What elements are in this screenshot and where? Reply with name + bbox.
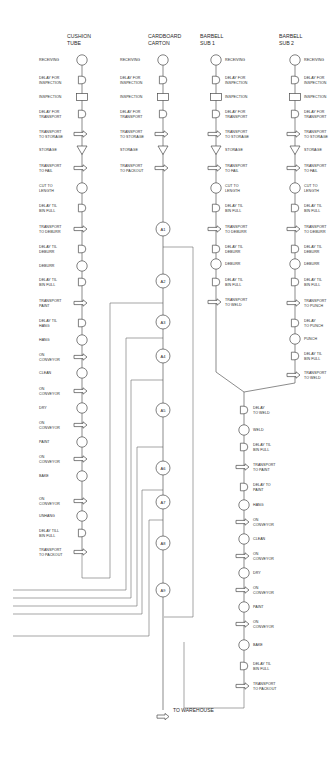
step-label: DELAY FORTRANSPORT	[304, 110, 327, 119]
assembly-node-a2: A2	[156, 274, 170, 288]
operation-icon	[290, 259, 300, 269]
step-label: PUNCH	[304, 337, 317, 341]
operation-icon	[211, 183, 221, 193]
step-label: TRANSPORTTO PACKOUT	[39, 548, 63, 557]
step-label: TRANSPORTTO FAIL	[225, 164, 248, 173]
delay-icon	[240, 662, 247, 670]
transport-arrow-icon	[287, 165, 300, 171]
step-label: DELAY TILDEBURR	[225, 245, 243, 254]
merge-line	[216, 302, 295, 392]
step-label: DELAY TILDEBURR	[304, 245, 322, 254]
operation-icon	[77, 511, 87, 521]
assembly-node-a9: A9	[156, 583, 170, 597]
operation-icon	[239, 640, 249, 650]
assembly-node-label: A3	[161, 320, 167, 325]
transport-arrow-icon	[74, 131, 87, 137]
step-label: TRANSPORTTO DEBURR	[304, 225, 327, 234]
transport-arrow-icon	[236, 621, 249, 627]
step-label: DELAY TILBIN FULL	[39, 204, 57, 213]
delay-icon	[212, 245, 219, 253]
step-label: INSPECTION	[39, 95, 62, 99]
step-label: DELAY TILDEBURR	[39, 245, 57, 254]
step-label: ONCONVEYOR	[253, 620, 274, 629]
transport-arrow-icon	[74, 226, 87, 232]
transport-arrow-icon	[155, 131, 168, 137]
assembly-node-label: A5	[161, 408, 167, 413]
step-label: BAKE	[253, 643, 263, 647]
step-label: ONCONVEYOR	[39, 421, 60, 430]
feed-line	[13, 380, 163, 598]
step-label: DEBURR	[225, 262, 241, 266]
delay-icon	[212, 204, 219, 212]
step-label: DELAY FORTRANSPORT	[39, 110, 62, 119]
process-steps: RECEIVINGDELAY FORINSPECTIONINSPECTIONDE…	[39, 55, 328, 720]
operation-icon	[239, 500, 249, 510]
delay-icon	[240, 483, 247, 491]
delay-icon	[291, 352, 298, 360]
operation-icon	[290, 183, 300, 193]
storage-icon	[77, 146, 87, 155]
assembly-node-a4: A4	[156, 349, 170, 363]
operation-icon	[290, 334, 300, 344]
operation-icon	[239, 568, 249, 578]
assembly-node-a6: A6	[156, 461, 170, 475]
step-label: TRANSPORTTO WELD	[225, 298, 248, 307]
step-label: TRANSPORTTO PACKOUT	[253, 682, 277, 691]
delay-icon	[78, 278, 85, 286]
process-flow-diagram: RECEIVINGDELAY FORINSPECTIONINSPECTIONDE…	[0, 0, 334, 764]
operation-icon	[77, 368, 87, 378]
delay-icon	[78, 204, 85, 212]
transport-arrow-icon	[287, 372, 300, 378]
delay-icon	[78, 245, 85, 253]
delay-icon	[159, 76, 166, 84]
delay-icon	[240, 406, 247, 414]
step-label: TRANSPORTTO WELD	[304, 371, 327, 380]
step-label: DELAY TILBIN FULL	[253, 662, 271, 671]
inspection-icon	[290, 94, 301, 101]
column-title: BARBELLSUB 1	[200, 33, 223, 46]
feed-line	[13, 338, 163, 590]
end-marker: TO WAREHOUSE	[173, 707, 215, 713]
step-label: DEBURR	[304, 262, 320, 266]
step-label: DELAY TILHANG	[39, 319, 57, 328]
transport-arrow-icon	[74, 388, 87, 394]
step-label: INSPECTION	[225, 95, 248, 99]
delay-icon	[291, 204, 298, 212]
delay-icon	[240, 443, 247, 451]
step-label: DELAY TILBIN FULL	[225, 204, 243, 213]
delay-icon	[78, 319, 85, 327]
delay-icon	[78, 110, 85, 118]
column-barbell-assembly: DELAYTO WELDWELDDELAY TILBIN FULLTRANSPO…	[236, 406, 277, 691]
transport-arrow-icon	[287, 226, 300, 232]
step-label: CLEAN	[253, 537, 266, 541]
step-label: TRANSPORTTO PUNCH	[304, 299, 327, 308]
step-label: UNHANG	[39, 514, 55, 518]
operation-icon	[77, 403, 87, 413]
delay-icon	[78, 529, 85, 537]
assembly-node-label: A4	[161, 354, 167, 359]
step-label: ONCONVEYOR	[253, 518, 274, 527]
delay-icon	[212, 278, 219, 286]
step-label: PAINT	[253, 605, 264, 609]
barbell-return-line	[184, 642, 244, 708]
transport-arrow-icon	[74, 422, 87, 428]
column-title: CUSHIONTUBE	[67, 33, 91, 46]
step-label: RECEIVING	[39, 58, 59, 62]
transport-arrow-icon	[208, 165, 221, 171]
delay-icon	[291, 76, 298, 84]
column-cardboard-carton: RECEIVINGDELAY FORINSPECTIONINSPECTIONDE…	[120, 55, 169, 173]
step-label: TRANSPORTPAINT	[39, 299, 62, 308]
inspection-icon	[211, 94, 222, 101]
operation-icon	[239, 425, 249, 435]
step-label: CUT TOLENGTH	[39, 184, 54, 193]
column-title: BARBELLSUB 2	[279, 33, 302, 46]
column-headers: CUSHIONTUBECARDBOARDCARTONBARBELLSUB 1BA…	[67, 33, 302, 46]
delay-icon	[291, 110, 298, 118]
step-label: DELAY TILBIN FULL	[39, 278, 57, 287]
transport-arrow-icon	[74, 165, 87, 171]
transport-arrow-icon	[74, 300, 87, 306]
assembly-node-label: A2	[161, 279, 167, 284]
step-label: PAINT	[39, 440, 50, 444]
delay-icon	[212, 110, 219, 118]
operation-icon	[211, 259, 221, 269]
